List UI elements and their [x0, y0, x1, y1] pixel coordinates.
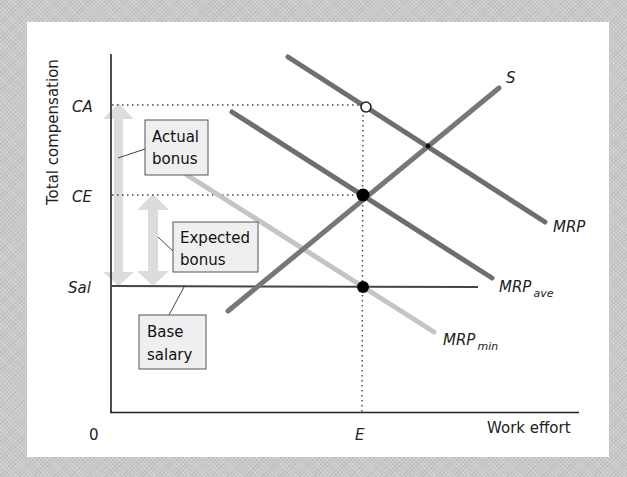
expected-bonus-line-2: bonus [180, 251, 226, 269]
expected-bonus-leader [158, 237, 173, 251]
actual-bonus-line-2: bonus [152, 150, 198, 168]
expected-point [357, 189, 370, 202]
expected-bonus-line-1: Expected [180, 229, 250, 247]
base-salary-line-2: salary [147, 346, 193, 364]
actual-point [361, 102, 371, 112]
base-salary-leader [169, 287, 184, 315]
actual-bonus-box: Actual bonus [145, 120, 208, 175]
base-salary-line [111, 286, 478, 287]
mrp-label: MRP [553, 218, 586, 236]
ca-tick-label: CA [72, 98, 93, 116]
base-salary-box: Base salary [139, 315, 206, 369]
sal-tick-label: Sal [68, 279, 92, 297]
expected-bonus-box: Expected bonus [173, 222, 258, 272]
e-tick-label: E [355, 426, 365, 444]
ce-tick-label: CE [72, 188, 92, 206]
mrp-ave-main: MRP [499, 278, 532, 296]
base-point [357, 281, 369, 293]
mrp-ave-label: MRPave [499, 278, 554, 300]
base-salary-line-1: Base [147, 323, 184, 341]
compensation-diagram: Actual bonus Expected bonus Base salary … [0, 0, 627, 477]
mrp-min-main: MRP [443, 331, 476, 349]
mrp-min-label: MRPmin [443, 331, 498, 353]
expected-bonus-arrow [137, 194, 169, 286]
supply-label: S [506, 69, 516, 87]
mrp-min-sub: min [477, 340, 498, 353]
x-axis-label: Work effort [487, 419, 571, 437]
actual-bonus-line-1: Actual [152, 128, 199, 146]
origin-label: 0 [89, 426, 99, 444]
y-axis-label: Total compensation [44, 59, 62, 206]
mrp-s-intersection [426, 144, 431, 149]
e-guide [362, 110, 363, 412]
mrp-ave-sub: ave [533, 287, 553, 300]
